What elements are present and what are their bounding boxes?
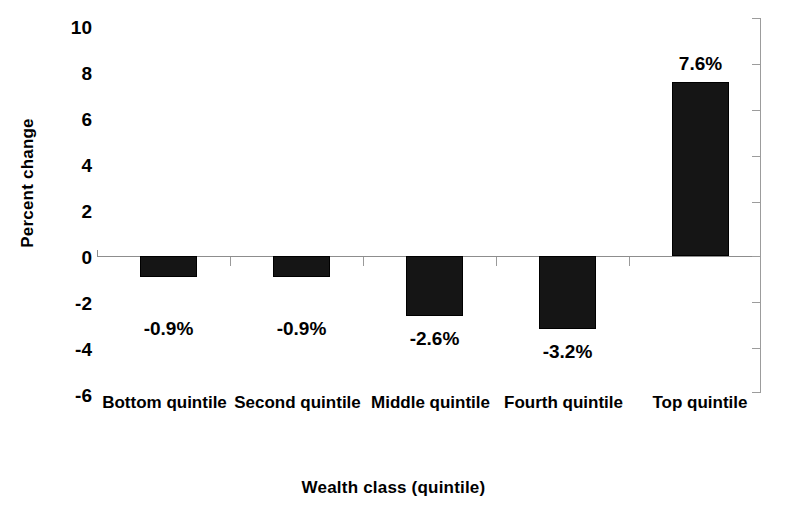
right-axis-tick-2	[752, 202, 760, 203]
right-axis-tick-0	[752, 256, 760, 257]
x-tick-label-middle-quintile: Middle quintile	[364, 392, 497, 414]
zero-baseline-left-cap	[97, 250, 98, 257]
right-axis-tick-10	[752, 18, 760, 19]
right-axis-tick-6	[752, 110, 760, 111]
bar-fourth-quintile[interactable]	[539, 256, 596, 329]
right-axis-tick-neg2	[752, 302, 760, 303]
x-tick-label-bottom-quintile: Bottom quintile	[98, 392, 231, 414]
bar-value-bottom-quintile: -0.9%	[115, 319, 222, 338]
bar-value-middle-quintile: -2.6%	[381, 329, 488, 348]
x-category-tick-3	[496, 257, 497, 266]
y-axis-tick-labels: 10 8 6 4 2 0 -2 -4 -6	[42, 0, 92, 515]
x-tick-label-fourth-quintile: Fourth quintile	[497, 392, 630, 414]
bar-bottom-quintile[interactable]	[140, 256, 197, 277]
right-axis-line	[760, 18, 761, 393]
bar-value-second-quintile: -0.9%	[248, 319, 355, 338]
y-tick-label-8: 8	[46, 64, 92, 83]
bar-middle-quintile[interactable]	[406, 256, 463, 316]
y-tick-label-4: 4	[46, 156, 92, 175]
y-tick-label-neg4: -4	[46, 340, 92, 359]
x-axis-title: Wealth class (quintile)	[0, 478, 787, 498]
plot-area: -0.9% -0.9% -2.6% -3.2% 7.6%	[97, 18, 761, 393]
bar-top-quintile[interactable]	[672, 82, 729, 256]
y-tick-label-2: 2	[46, 202, 92, 221]
bar-chart: Percent change 10 8 6 4 2 0 -2 -4 -6	[0, 0, 787, 515]
y-tick-label-6: 6	[46, 110, 92, 129]
bar-value-top-quintile: 7.6%	[647, 54, 754, 73]
x-category-tick-4	[629, 257, 630, 266]
y-tick-label-neg2: -2	[46, 294, 92, 313]
y-tick-label-10: 10	[46, 18, 92, 37]
right-axis-tick-neg4	[752, 348, 760, 349]
bar-value-fourth-quintile: -3.2%	[514, 342, 621, 361]
bar-second-quintile[interactable]	[273, 256, 330, 277]
y-tick-label-neg6: -6	[46, 386, 92, 405]
y-axis-title: Percent change	[18, 73, 38, 293]
right-axis-tick-4	[752, 156, 760, 157]
x-category-tick-2	[363, 257, 364, 266]
y-tick-label-0: 0	[46, 248, 92, 267]
x-category-tick-1	[230, 257, 231, 266]
x-tick-label-second-quintile: Second quintile	[231, 392, 364, 414]
x-tick-label-top-quintile: Top quintile	[620, 392, 780, 414]
